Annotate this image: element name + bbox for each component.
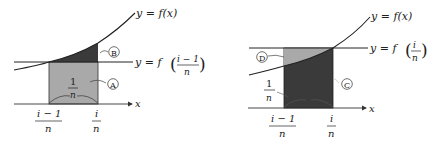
label-d: D — [259, 54, 265, 63]
svg-text:(: ( — [170, 54, 177, 74]
line-label-prefix: y = f — [369, 42, 398, 55]
line-label-num: i — [413, 40, 416, 50]
label-a: A — [109, 81, 116, 90]
tick-left-num: i − 1 — [271, 113, 295, 124]
tick-left-den: n — [279, 128, 285, 139]
line-label-den: n — [412, 53, 418, 63]
tick-right-den: n — [93, 123, 99, 134]
right-panel: y = f(x) y = f ( i n ) D C 1 n x i − 1 n… — [248, 10, 428, 139]
svg-text:(: ( — [405, 40, 412, 60]
region-b — [49, 43, 98, 62]
line-label-den: n — [184, 67, 190, 77]
svg-text:): ) — [199, 54, 206, 74]
line-label-num: i − 1 — [177, 54, 199, 64]
riemann-diagram: y = f(x) y = f ( i − 1 n ) 1 n A B x i −… — [0, 0, 432, 145]
tick-left-num: i − 1 — [37, 108, 61, 119]
svg-text:): ) — [421, 40, 428, 60]
line-label-prefix: y = f — [134, 56, 163, 69]
width-num: 1 — [70, 76, 76, 87]
curve-label: y = f(x) — [370, 10, 412, 23]
x-axis-label: x — [369, 103, 375, 114]
x-axis-label: x — [135, 98, 141, 109]
width-den: n — [266, 93, 272, 103]
curve-label: y = f(x) — [135, 7, 177, 20]
width-den: n — [70, 90, 76, 100]
tick-left-den: n — [45, 123, 51, 134]
tick-right-num: i — [95, 108, 98, 119]
tick-right-den: n — [328, 128, 334, 139]
left-panel: y = f(x) y = f ( i − 1 n ) 1 n A B x i −… — [14, 7, 206, 134]
label-c: C — [344, 81, 350, 90]
width-num: 1 — [266, 78, 272, 89]
label-b: B — [111, 49, 117, 58]
tick-right-num: i — [330, 113, 333, 124]
